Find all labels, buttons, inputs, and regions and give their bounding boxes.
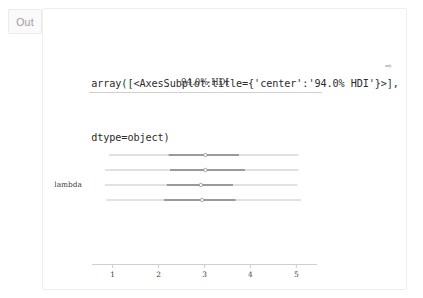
credible-interval-row xyxy=(109,153,299,156)
x-axis-tick-label: 3 xyxy=(202,270,207,279)
point-estimate-marker xyxy=(204,168,207,171)
credible-interval-group xyxy=(105,153,301,201)
point-estimate-marker xyxy=(199,183,202,186)
point-estimate-marker xyxy=(201,198,204,201)
credible-interval-row xyxy=(105,168,299,171)
credible-interval-row xyxy=(106,198,301,201)
point-estimate-marker xyxy=(204,153,207,156)
y-axis-label: lambda xyxy=(54,180,82,189)
plot-title: 94.0% HDI xyxy=(181,77,229,87)
credible-interval-row xyxy=(105,183,297,186)
x-axis-tick-label: 4 xyxy=(248,270,253,279)
output-cell-panel: array([<AxesSubplot:title={'center':'94.… xyxy=(42,8,407,290)
forest-plot-figure: 94.0% HDI lambda 12345 xyxy=(43,65,406,289)
x-axis-ticks-group: 12345 xyxy=(110,265,299,280)
output-prompt-label: Out xyxy=(8,9,42,34)
x-axis-tick-label: 2 xyxy=(156,270,161,279)
x-axis-tick-label: 5 xyxy=(294,270,299,279)
forest-plot-svg: 94.0% HDI lambda 12345 xyxy=(43,65,406,289)
x-axis-tick-label: 1 xyxy=(110,270,115,279)
output-prompt-text: Out xyxy=(16,16,34,28)
